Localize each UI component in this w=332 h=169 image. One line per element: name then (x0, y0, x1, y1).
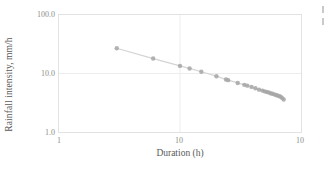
cropped-edge-mark-bottom (322, 18, 324, 25)
cropped-edge-marks (322, 6, 328, 28)
x-tick-label-100: 10 (296, 137, 304, 145)
x-axis-title: Duration (h) (58, 148, 302, 158)
x-tick-label-1: 1 (57, 137, 61, 145)
x-tick-label-10: 10 (175, 137, 183, 145)
chart-container: Rainfall intensity, mm/h 100.0 10.0 1.0 … (0, 0, 332, 169)
cropped-edge-mark-top (322, 6, 324, 13)
x-axis-tick-labels: 1 10 10 (0, 0, 332, 169)
